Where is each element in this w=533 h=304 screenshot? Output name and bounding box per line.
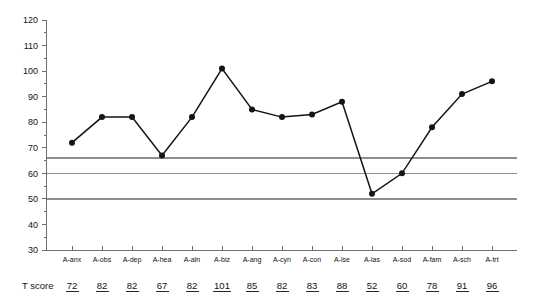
x-tick-label: A-ang: [243, 256, 262, 264]
tscore-value: 82: [97, 280, 108, 291]
tscore-value: 101: [214, 280, 230, 291]
x-tick-label: A-anx: [63, 256, 82, 263]
tscore-value: 82: [277, 280, 288, 291]
tscore-value: 82: [127, 280, 138, 291]
y-tick-label: 40: [28, 220, 38, 230]
y-tick-label: 100: [23, 66, 38, 76]
y-tick-label: 50: [28, 194, 38, 204]
x-tick-label: A-biz: [214, 256, 230, 263]
x-tick-label: A-con: [303, 256, 321, 263]
tscore-value: 82: [187, 280, 198, 291]
series-data-point: [369, 191, 375, 197]
series-data-point: [99, 114, 105, 120]
series-data-point: [399, 170, 405, 176]
tscore-value: 91: [457, 280, 468, 291]
tscore-value: 72: [67, 280, 78, 291]
series-data-point: [159, 152, 165, 158]
x-tick-label: A-sch: [453, 256, 471, 263]
tscore-value: 96: [487, 280, 498, 291]
series-data-point: [429, 124, 435, 130]
x-tick-label: A-hea: [153, 256, 172, 263]
x-tick-label: A-las: [364, 256, 380, 263]
mmpi-content-scales-profile-chart: 30405060708090100110120 A-anxA-obsA-depA…: [0, 0, 533, 304]
tscore-value: 52: [367, 280, 378, 291]
series-data-point: [489, 78, 495, 84]
series-data-point: [69, 140, 75, 146]
x-tick-label: A-dep: [123, 256, 142, 264]
x-tick-label: A-cyn: [273, 256, 291, 264]
series-data-point: [339, 99, 345, 105]
tscore-value: 78: [427, 280, 438, 291]
tscore-value: 83: [307, 280, 318, 291]
tscore-row-label: T score: [22, 280, 54, 291]
series-data-point: [219, 66, 225, 72]
y-tick-label: 110: [24, 41, 38, 51]
x-tick-label: A-lse: [334, 256, 350, 263]
series-data-point: [279, 114, 285, 120]
x-tick-label: A-sod: [393, 256, 411, 263]
x-tick-label: A-obs: [93, 256, 112, 263]
tscore-value: 88: [337, 280, 348, 291]
x-tick-label: A-fam: [423, 256, 442, 263]
x-tick-label: A-trt: [485, 256, 498, 263]
tscore-value: 67: [157, 280, 168, 291]
y-tick-label: 120: [23, 15, 38, 25]
series-data-point: [129, 114, 135, 120]
y-tick-label: 70: [28, 143, 38, 153]
y-tick-label: 80: [28, 117, 38, 127]
series-data-point: [309, 112, 315, 118]
series-data-point: [249, 106, 255, 112]
series-data-point: [459, 91, 465, 97]
y-tick-label: 90: [28, 92, 38, 102]
tscore-value: 85: [247, 280, 258, 291]
y-tick-label: 60: [28, 169, 38, 179]
series-data-point: [189, 114, 195, 120]
x-tick-label: A-aln: [184, 256, 200, 263]
x-tick-labels-group: A-anxA-obsA-depA-heaA-alnA-bizA-angA-cyn…: [63, 256, 499, 264]
chart-canvas: 30405060708090100110120 A-anxA-obsA-depA…: [0, 0, 533, 304]
tscore-value: 60: [397, 280, 408, 291]
y-tick-label: 30: [28, 245, 38, 255]
